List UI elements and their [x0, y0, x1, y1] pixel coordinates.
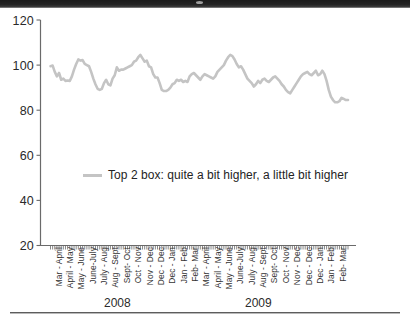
x-tick-label: Oct - Nov — [133, 247, 143, 283]
x-tick-label: Jan - Feb — [179, 247, 189, 283]
x-tick-label: Mar - April — [54, 247, 64, 286]
x-tick-label: Feb- Mar — [338, 247, 348, 282]
legend-entry-label: Top 2 box: quite a bit higher, a little … — [108, 168, 348, 182]
year-group-label-2008: 2008 — [104, 296, 131, 310]
x-axis-tick-labels: Mar - AprilApril - MayMay - JuneJune-Jul… — [0, 247, 410, 303]
x-tick-label: July - Aug — [99, 247, 109, 285]
x-tick-label: Feb- Mar — [190, 247, 200, 282]
x-tick-label: Nov - Dec — [145, 247, 155, 285]
x-tick-label: Dec - Dec — [304, 247, 314, 285]
x-tick-label: Mar - April — [201, 247, 211, 286]
x-tick-label: April - May — [65, 247, 75, 288]
data-series-line — [51, 55, 349, 102]
y-tick-label-40: 40 — [0, 194, 34, 208]
y-tick-label-100: 100 — [0, 59, 34, 73]
year-group-label-2009: 2009 — [245, 296, 272, 310]
y-tick-label-80: 80 — [0, 104, 34, 118]
line-chart: 120 100 80 60 40 20 Top 2 box: quite a b… — [0, 0, 410, 319]
x-tick-label: Aug - Sept — [258, 247, 268, 288]
x-tick-label: Nov - Dec — [292, 247, 302, 285]
footer-divider-shadow — [10, 313, 400, 314]
x-tick-label: Jan - Feb — [326, 247, 336, 283]
chart-legend: Top 2 box: quite a bit higher, a little … — [83, 168, 348, 182]
x-tick-label: Sept- Oct — [269, 247, 279, 283]
x-tick-label: June-July — [88, 247, 98, 284]
x-tick-label: Dec - Jan — [315, 247, 325, 284]
x-tick-label: Aug - Sept — [110, 247, 120, 288]
y-tick-label-60: 60 — [0, 149, 34, 163]
x-tick-label: Dec - Dec — [156, 247, 166, 285]
x-tick-label: July - Aug — [247, 247, 257, 285]
x-tick-label: June-July — [235, 247, 245, 284]
x-tick-label: Oct - Nov — [281, 247, 291, 283]
legend-color-swatch — [83, 174, 102, 177]
x-tick-label: May - June — [76, 247, 86, 289]
x-tick-label: May - June — [224, 247, 234, 289]
x-tick-label: Sept- Oct — [122, 247, 132, 283]
x-tick-label: April - May — [213, 247, 223, 288]
axes — [37, 20, 357, 250]
x-tick-label: Dec - Jan — [167, 247, 177, 284]
y-tick-label-120: 120 — [0, 14, 34, 28]
